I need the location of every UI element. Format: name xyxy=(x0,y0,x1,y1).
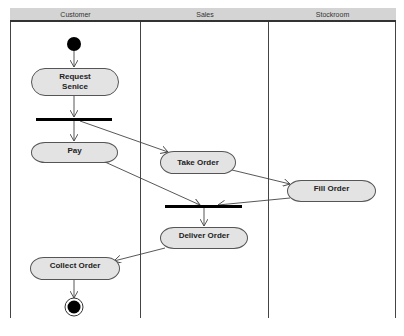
fork-bar xyxy=(36,118,112,121)
lane-header-customer: Customer xyxy=(10,8,141,22)
activity-take-order: Take Order xyxy=(160,151,236,174)
activity-diagram: Customer Sales Stockroom Request Senice … xyxy=(0,0,404,336)
lane-header-sales: Sales xyxy=(141,8,269,22)
activity-pay: Pay xyxy=(31,142,118,163)
activity-fill-order: Fill Order xyxy=(287,180,376,202)
lane-header-stockroom: Stockroom xyxy=(269,8,396,22)
initial-node-icon xyxy=(67,37,81,51)
join-bar xyxy=(165,205,242,208)
activity-deliver-order: Deliver Order xyxy=(160,227,248,249)
final-node-inner-icon xyxy=(68,301,81,314)
activity-request-service: Request Senice xyxy=(31,68,119,96)
activity-collect-order: Collect Order xyxy=(30,257,120,280)
